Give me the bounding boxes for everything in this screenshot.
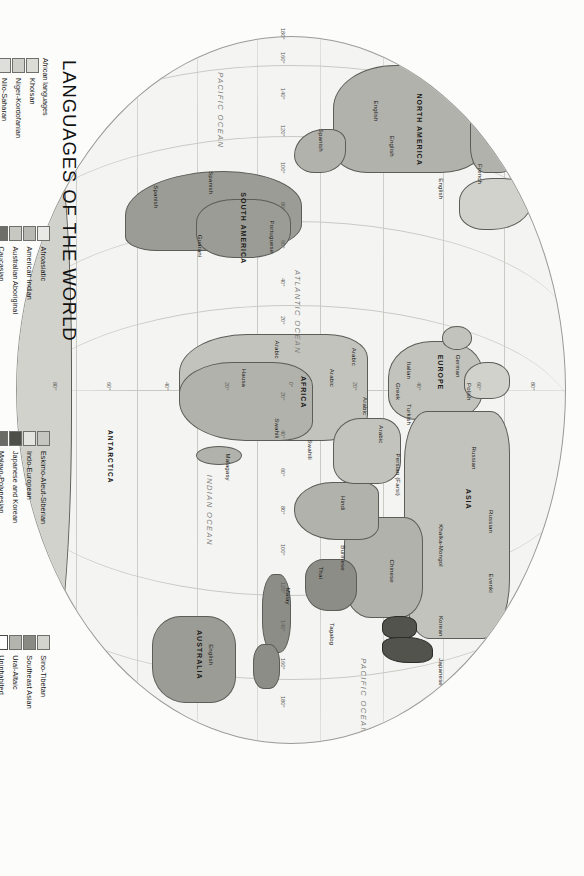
landmass-korea xyxy=(382,616,417,639)
longitude-tick: 180° xyxy=(280,696,286,708)
longitude-tick: 180° xyxy=(280,28,286,40)
longitude-tick: 20° xyxy=(280,392,286,400)
page-title: LANGUAGES OF THE WORLD xyxy=(58,60,80,342)
language-label: English xyxy=(389,136,395,157)
language-label: Hindi xyxy=(340,496,346,511)
legend-item[interactable]: Niger-Kordofanian xyxy=(13,58,25,226)
landmass-australia xyxy=(152,616,236,703)
legend-column-three: Eskimo-Aleut-Siberian Indo-European Japa… xyxy=(6,431,50,635)
legend-swatch xyxy=(38,431,51,446)
language-label: Thai xyxy=(318,567,324,579)
legend-label: Niger-Kordofanian xyxy=(15,78,24,138)
longitude-tick: 40° xyxy=(280,430,286,438)
legend-swatch-uninhabited xyxy=(0,635,9,650)
legend-swatch xyxy=(10,226,23,241)
longitude-tick: 140° xyxy=(280,88,286,100)
legend-label: Indo-European xyxy=(26,451,35,500)
legend-swatch xyxy=(13,58,26,73)
legend-item[interactable]: American Indian xyxy=(24,226,36,430)
legend-swatch xyxy=(24,635,37,650)
language-label: French xyxy=(477,164,483,184)
longitude-tick: 40° xyxy=(280,278,286,286)
legend-label: Southeast Asian xyxy=(26,655,35,708)
latitude-tick: 20° xyxy=(224,382,230,390)
landmass-india xyxy=(295,482,379,540)
legend-item[interactable]: Afroasiatic xyxy=(38,226,50,430)
language-label: English xyxy=(438,178,444,199)
language-label: English xyxy=(449,58,455,79)
legend-header-row: African languages xyxy=(41,58,50,226)
ocean-label-indian: INDIAN OCEAN xyxy=(205,475,214,546)
legend-item[interactable]: Sino-Tibetan xyxy=(38,635,50,758)
legend-label: Ural-Altaic xyxy=(12,655,21,689)
longitude-tick: 100° xyxy=(280,544,286,556)
language-label: Guarani xyxy=(197,235,203,258)
ocean-label-pacific-west: PACIFIC OCEAN xyxy=(216,72,225,148)
legend-swatch xyxy=(10,635,23,650)
legend-label: Caucasian xyxy=(0,246,7,281)
legend-item[interactable]: Nilo-Saharan xyxy=(0,58,11,226)
latitude-tick: 20° xyxy=(352,382,358,390)
legend-label: Afroasiatic xyxy=(40,246,49,281)
language-label: Tagalog xyxy=(329,623,335,645)
language-label: Polish xyxy=(466,383,472,401)
continent-label-south-america: SOUTH AMERICA xyxy=(240,192,247,264)
language-label: Burmese xyxy=(340,545,346,570)
longitude-tick: 160° xyxy=(280,52,286,64)
legend-column-african: African languages Khoisan Niger-Kordofan… xyxy=(6,58,50,226)
language-label: Arabic xyxy=(378,425,384,443)
language-label: Malagasy xyxy=(225,454,231,481)
landmass-north-america xyxy=(333,65,488,173)
language-label: Portuguese xyxy=(269,221,275,254)
legend-label: Nilo-Saharan xyxy=(1,78,10,121)
longitude-tick: 160° xyxy=(280,658,286,670)
landmass-southeast-asia xyxy=(305,559,356,610)
legend-item[interactable]: Japanese and Korean xyxy=(10,431,22,635)
landmass-madagascar xyxy=(196,446,242,465)
longitude-tick: 100° xyxy=(280,162,286,174)
legend-item[interactable]: Malayo-Polynesian xyxy=(0,431,8,635)
legend-label: Uninhabited xyxy=(0,655,7,694)
longitude-tick: 80° xyxy=(280,202,286,210)
longitude-tick: 60° xyxy=(280,240,286,248)
latitude-tick: 60° xyxy=(476,382,482,390)
legend-swatch xyxy=(38,226,51,241)
language-label: Arabic xyxy=(351,348,357,366)
latitude-tick: 80° xyxy=(530,382,536,390)
language-label: German xyxy=(455,355,461,378)
latitude-tick: 0° xyxy=(288,382,294,387)
landmass-new-guinea xyxy=(253,644,280,688)
legend-item[interactable]: Khoisan xyxy=(27,58,39,226)
legend-swatch xyxy=(38,635,51,650)
longitude-tick: 120° xyxy=(280,125,286,137)
longitude-tick: 60° xyxy=(280,468,286,476)
legend-item[interactable]: Ural-Altaic xyxy=(10,635,22,758)
legend-item[interactable]: Indo-European xyxy=(24,431,36,635)
legend-label: Sino-Tibetan xyxy=(40,655,49,697)
legend-label: Khoisan xyxy=(29,78,38,105)
landmass-canada-arctic xyxy=(470,86,521,173)
legend-swatch xyxy=(24,431,37,446)
landmass-british-isles xyxy=(442,326,471,349)
language-label: Italian xyxy=(406,362,412,379)
legend-item[interactable]: Australian Aboriginal xyxy=(10,226,22,430)
landmass-russia xyxy=(404,411,510,639)
legend-item[interactable]: Southeast Asian xyxy=(24,635,36,758)
legend-item[interactable]: Caucasian xyxy=(0,226,8,430)
latitude-tick: 60° xyxy=(106,382,112,390)
language-label: Arabic xyxy=(329,369,335,387)
legend-swatch xyxy=(10,431,23,446)
legend-column-four: Sino-Tibetan Southeast Asian Ural-Altaic… xyxy=(6,635,50,758)
legend-item[interactable]: Eskimo-Aleut-Siberian xyxy=(38,431,50,635)
continent-label-europe: EUROPE xyxy=(437,355,444,391)
longitude-tick: 140° xyxy=(280,620,286,632)
continent-label-australia: AUSTRALIA xyxy=(196,630,203,679)
legend-item[interactable]: Uninhabited xyxy=(0,635,8,758)
language-label: Korean xyxy=(438,616,444,637)
language-label: Spanish xyxy=(153,185,159,208)
language-label: Greek xyxy=(395,383,401,400)
world-map: PACIFIC OCEAN ATLANTIC OCEAN INDIAN OCEA… xyxy=(8,10,578,770)
antarctica-label: ANTARCTICA xyxy=(107,430,114,484)
legend-label: American Indian xyxy=(26,246,35,299)
language-label: Spanish xyxy=(318,129,324,152)
